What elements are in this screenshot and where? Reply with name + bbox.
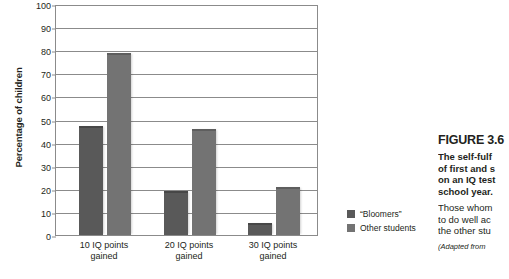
gridline (56, 97, 317, 98)
legend-label: “Bloomers” (360, 209, 402, 219)
x-axis-label-line: 30 IQ points (228, 240, 318, 251)
x-axis-group-label: 30 IQ pointsgained (228, 240, 318, 262)
y-tick-label: 10 (41, 209, 51, 218)
y-tick-label: 30 (41, 163, 51, 172)
figure-caption: FIGURE 3.6 The self-fulfof first and son… (438, 133, 509, 252)
caption-lead-text: The self-fulfof first and son an IQ test… (438, 151, 509, 197)
x-axis-label-line: gained (59, 251, 149, 262)
x-axis-group-label: 10 IQ pointsgained (59, 240, 149, 262)
figure-number: FIGURE 3.6 (438, 133, 509, 147)
legend-item: “Bloomers” (347, 207, 442, 220)
y-tick-mark (52, 75, 56, 76)
legend-swatch-icon (347, 224, 355, 232)
y-tick-mark (52, 29, 56, 30)
caption-body-text: Those whomto do well acthe other stu (438, 202, 509, 237)
caption-body-line: to do well ac (438, 214, 509, 226)
bar-fill (276, 187, 300, 236)
y-tick-label: 0 (46, 233, 51, 242)
y-axis-title: Percentage of children (13, 38, 24, 198)
legend-item: Other students (347, 221, 442, 234)
bar-bloomers (248, 223, 272, 235)
caption-body-line: the other stu (438, 225, 509, 237)
y-tick-label: 80 (41, 48, 51, 57)
y-tick-mark (52, 237, 56, 238)
x-axis-label-line: gained (228, 251, 318, 262)
gridline (56, 74, 317, 75)
y-tick-label: 50 (41, 117, 51, 126)
y-tick-label: 100 (36, 2, 51, 11)
caption-lead-line: The self-fulf (438, 151, 509, 163)
y-tick-label: 40 (41, 140, 51, 149)
y-tick-mark (52, 190, 56, 191)
y-tick-mark (52, 167, 56, 168)
y-tick-mark (52, 121, 56, 122)
x-axis-label-line: 20 IQ points (144, 240, 234, 251)
y-tick-mark (52, 144, 56, 145)
bar-chart: Percentage of children 01020304050607080… (0, 0, 340, 279)
bar-fill (107, 53, 131, 235)
legend-label: Other students (360, 223, 416, 233)
y-tick-label: 20 (41, 186, 51, 195)
bar-bloomers (79, 126, 103, 235)
y-tick-mark (52, 6, 56, 7)
bar-fill (192, 129, 216, 235)
gridline (56, 121, 317, 122)
caption-body-line: Those whom (438, 202, 509, 214)
x-axis-label-line: 10 IQ points (59, 240, 149, 251)
caption-source: (Adapted from (438, 242, 509, 252)
legend-swatch-icon (347, 210, 355, 218)
bar-bloomers (164, 191, 188, 235)
y-tick-label: 70 (41, 71, 51, 80)
caption-lead-line: on an IQ test (438, 174, 509, 186)
y-tick-label: 60 (41, 94, 51, 103)
gridline (56, 28, 317, 29)
y-tick-mark (52, 98, 56, 99)
caption-lead-line: school year. (438, 186, 509, 198)
y-tick-mark (52, 213, 56, 214)
caption-lead-line: of first and s (438, 163, 509, 175)
bar-other-students (192, 129, 216, 235)
gridline (56, 51, 317, 52)
x-axis-label-line: gained (144, 251, 234, 262)
bar-fill (79, 126, 103, 235)
chart-legend: “Bloomers”Other students (347, 207, 442, 235)
y-tick-mark (52, 52, 56, 53)
bar-other-students (276, 187, 300, 236)
x-axis-group-label: 20 IQ pointsgained (144, 240, 234, 262)
y-tick-label: 90 (41, 25, 51, 34)
gridline (56, 5, 317, 6)
bar-other-students (107, 53, 131, 235)
bar-fill (164, 191, 188, 235)
plot-area: 0102030405060708090100 (55, 5, 318, 236)
bar-fill (248, 223, 272, 235)
